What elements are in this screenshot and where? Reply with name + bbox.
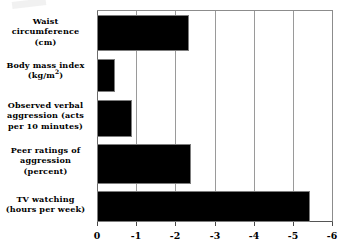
tick-mark-0 bbox=[97, 222, 98, 226]
bar-peer-ratings-of-aggression bbox=[97, 144, 191, 184]
category-label-line: (hours per week) bbox=[0, 204, 91, 214]
tick-mark-minus-4 bbox=[254, 222, 255, 226]
tick-label-minus-2: -2 bbox=[170, 230, 180, 241]
category-label-observed-verbal-aggression: Observed verbal aggression (acts per 10 … bbox=[0, 100, 91, 131]
gridline-minus-5 bbox=[293, 11, 294, 221]
tick-mark-minus-5 bbox=[293, 222, 294, 226]
category-label-line: Waist bbox=[0, 16, 91, 26]
tick-label-0: 0 bbox=[94, 230, 101, 241]
category-label-line: aggression (acts bbox=[0, 110, 91, 120]
tick-label-minus-4: -4 bbox=[249, 230, 259, 241]
category-label-line: (kg/m2) bbox=[0, 70, 91, 80]
tick-mark-minus-3 bbox=[215, 222, 216, 226]
gridline-minus-4 bbox=[254, 11, 255, 221]
plot-area bbox=[97, 10, 333, 222]
tick-mark-minus-2 bbox=[175, 222, 176, 226]
category-label-tv-watching: TV watching (hours per week) bbox=[0, 194, 91, 215]
bar-body-mass-index bbox=[97, 59, 115, 92]
bar-observed-verbal-aggression bbox=[97, 100, 132, 137]
category-axis-labels: Waist circumference (cm) Body mass index… bbox=[0, 10, 94, 222]
tick-mark-minus-6 bbox=[332, 222, 333, 226]
tick-label-minus-5: -5 bbox=[288, 230, 298, 241]
tick-label-minus-3: -3 bbox=[210, 230, 220, 241]
category-label-body-mass-index: Body mass index (kg/m2) bbox=[0, 60, 91, 81]
tick-mark-minus-1 bbox=[136, 222, 137, 226]
category-label-line: circumference (cm) bbox=[0, 26, 91, 47]
category-label-line: TV watching bbox=[0, 194, 91, 204]
gridline-minus-3 bbox=[215, 11, 216, 221]
bar-chart: Waist circumference (cm) Body mass index… bbox=[0, 0, 341, 245]
scan-artifact bbox=[12, 0, 47, 9]
category-label-line: Observed verbal bbox=[0, 100, 91, 110]
category-label-line: aggression bbox=[0, 155, 91, 165]
bar-tv-watching bbox=[97, 191, 310, 222]
category-label-line: Body mass index bbox=[0, 60, 91, 70]
category-label-waist-circumference: Waist circumference (cm) bbox=[0, 16, 91, 47]
category-label-peer-ratings-of-aggression: Peer ratings of aggression (percent) bbox=[0, 145, 91, 176]
tick-label-minus-6: -6 bbox=[327, 230, 337, 241]
category-label-line: (percent) bbox=[0, 166, 91, 176]
bmi-units-pre: (kg/m bbox=[28, 70, 55, 80]
bar-waist-circumference bbox=[97, 15, 189, 51]
value-axis: 0 -1 -2 -3 -4 -5 -6 bbox=[97, 222, 333, 245]
category-label-line: Peer ratings of bbox=[0, 145, 91, 155]
tick-label-minus-1: -1 bbox=[131, 230, 141, 241]
bmi-units-post: ) bbox=[59, 70, 63, 80]
category-label-line: per 10 minutes) bbox=[0, 121, 91, 131]
